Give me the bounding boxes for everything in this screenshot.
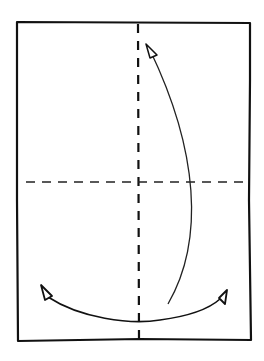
vertical-crease-line	[138, 24, 139, 338]
origami-diagram	[0, 0, 264, 361]
diagram-svg	[0, 0, 264, 361]
fold-up-arrowhead-icon	[146, 44, 157, 58]
paper-outline	[17, 22, 251, 341]
fold-up-arrow-shaft	[150, 50, 192, 304]
right-arrowhead-icon	[219, 290, 227, 304]
fold-sideways-arrow-shaft	[48, 297, 220, 322]
left-arrowhead-icon	[41, 285, 52, 300]
